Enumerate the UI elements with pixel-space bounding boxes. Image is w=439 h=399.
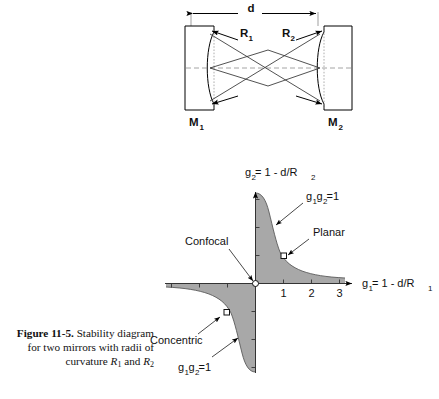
figure-page: d R 1 R 2 M 1 M 2 bbox=[0, 0, 439, 399]
svg-text:g: g bbox=[362, 277, 368, 289]
planar-leader bbox=[288, 239, 309, 255]
distance-label-d: d bbox=[247, 2, 254, 14]
concentric-label: Concentric bbox=[150, 334, 203, 346]
stable-region-quadrant-3 bbox=[166, 284, 256, 373]
curve-lower-eq: =1 bbox=[199, 361, 212, 373]
planar-label: Planar bbox=[313, 226, 345, 238]
planar-point-marker bbox=[281, 253, 287, 259]
curve-upper-eq: =1 bbox=[327, 190, 340, 202]
x-axis-label-rest: = 1 - d/R bbox=[372, 277, 415, 289]
ray-diamond-lower-right bbox=[268, 68, 320, 86]
confocal-leader bbox=[229, 249, 253, 281]
curve-label-upper-leader bbox=[276, 203, 303, 225]
curve-label-upper: g 1 g 2 =1 bbox=[306, 190, 339, 206]
radius-2-label: R 2 bbox=[282, 27, 296, 43]
figure-caption-r1-sub: 1 bbox=[117, 360, 121, 369]
figure-caption-r2-sub: 2 bbox=[150, 360, 154, 369]
x-tick-label-1: 1 bbox=[280, 287, 286, 299]
curve-label-lower: g 1 g 2 =1 bbox=[178, 361, 211, 377]
curve-label-lower-leader bbox=[212, 338, 238, 357]
curve-lower-g1: g bbox=[178, 361, 184, 373]
svg-text:M: M bbox=[189, 116, 199, 128]
concentric-point-marker bbox=[224, 310, 230, 316]
figure-caption: Figure 11-5. Stability diagram for two m… bbox=[2, 326, 154, 371]
x-axis-label: g 1 = 1 - d/R 1 bbox=[362, 277, 433, 293]
radius-1-subscript: 1 bbox=[249, 34, 254, 43]
x-axis-label-rest-sub: 1 bbox=[428, 284, 433, 293]
radius-1-label: R 1 bbox=[240, 27, 254, 43]
svg-text:M: M bbox=[328, 116, 338, 128]
radius-2-subscript: 2 bbox=[291, 34, 296, 43]
figure-caption-label: Figure 11-5. bbox=[17, 327, 74, 339]
stability-diagram: 1 2 3 g 1 = 1 - d/R 1 g 2 = 1 - d/R 2 Co… bbox=[150, 166, 433, 377]
figure-caption-and: and bbox=[121, 355, 143, 367]
x-tick-label-3: 3 bbox=[336, 287, 342, 299]
x-tick-label-2: 2 bbox=[308, 287, 314, 299]
ray-diamond-upper-right bbox=[268, 50, 320, 68]
mirror-cavity-diagram: d R 1 R 2 M 1 M 2 bbox=[185, 2, 352, 132]
ray-diamond-upper-left bbox=[210, 50, 268, 68]
curve-lower-g2: g bbox=[189, 361, 195, 373]
svg-text:g: g bbox=[245, 166, 251, 178]
concentric-leader bbox=[198, 317, 220, 334]
curve-upper-g1: g bbox=[306, 190, 312, 202]
curve-upper-g2: g bbox=[317, 190, 323, 202]
mirror-1-label: M 1 bbox=[189, 116, 205, 132]
y-axis-label-rest-sub: 2 bbox=[311, 173, 316, 182]
confocal-label: Confocal bbox=[185, 235, 228, 247]
y-axis-label: g 2 = 1 - d/R 2 bbox=[245, 166, 316, 182]
mirror-2-label: M 2 bbox=[328, 116, 344, 132]
figure-caption-r2: R bbox=[143, 355, 150, 367]
mirror-2-subscript: 2 bbox=[339, 123, 344, 132]
y-axis-label-rest: = 1 - d/R bbox=[255, 166, 298, 178]
radius-1-arrow-upper bbox=[212, 31, 238, 40]
mirror-1-subscript: 1 bbox=[200, 123, 205, 132]
confocal-point-marker bbox=[253, 281, 259, 287]
